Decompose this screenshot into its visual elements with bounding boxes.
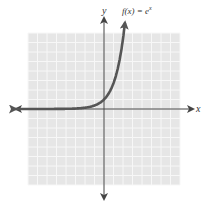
y-axis-label: y: [101, 5, 107, 16]
x-axis-label: x: [195, 103, 201, 114]
exponential-graph: y x f(x) = ex: [0, 0, 214, 212]
function-label: f(x) = ex: [122, 5, 152, 16]
